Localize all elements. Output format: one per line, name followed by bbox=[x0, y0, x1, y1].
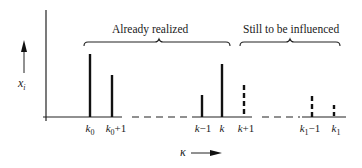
tick-k0: k0 bbox=[86, 122, 95, 137]
y-axis-label: xi bbox=[18, 76, 26, 92]
tick-k1: k1 bbox=[332, 122, 341, 137]
y-axis-subscript: i bbox=[23, 83, 25, 92]
tick-k-plus-1: k+1 bbox=[238, 122, 255, 134]
tick-k0-plus-1: k0+1 bbox=[106, 122, 127, 137]
y-arrow-head-icon bbox=[21, 40, 27, 52]
x-axis-label: κ bbox=[180, 145, 186, 160]
label-still-to-be-influenced: Still to be influenced bbox=[243, 23, 339, 35]
brace-already-realized bbox=[84, 39, 230, 46]
tick-k1-minus-1: k1−1 bbox=[300, 122, 321, 137]
brace-still-to-be-influenced bbox=[240, 39, 340, 46]
x-arrow-head-icon bbox=[210, 150, 222, 156]
label-already-realized: Already realized bbox=[112, 23, 188, 35]
tick-k: k bbox=[220, 122, 225, 134]
tick-k-minus-1: k−1 bbox=[195, 122, 212, 134]
